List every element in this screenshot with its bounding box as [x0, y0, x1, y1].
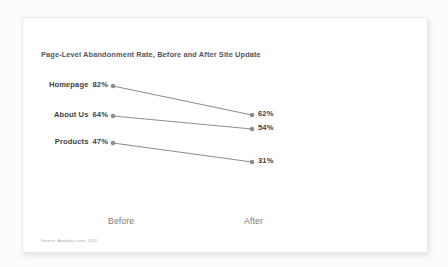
series-label-products: Products47%: [55, 137, 108, 146]
series-label-about-us: About Us64%: [54, 110, 108, 119]
slope-line-about-us: [113, 116, 252, 129]
series-right-value-about-us: 54%: [258, 123, 274, 132]
slope-line-products: [113, 143, 252, 162]
slope-dot-about-us-before: [111, 114, 116, 119]
series-label-homepage: Homepage82%: [49, 80, 108, 89]
series-left-value-products: 47%: [93, 137, 109, 146]
slope-chart-plot: [0, 0, 448, 267]
source-note: Source: Analytics.com, 2021.: [41, 238, 99, 243]
series-left-value-about-us: 64%: [93, 110, 109, 119]
slope-series-products: [111, 141, 255, 165]
slope-dot-homepage-after: [250, 113, 255, 118]
slope-dot-homepage-before: [111, 84, 116, 89]
series-name-about-us: About Us: [54, 110, 89, 119]
slope-series-homepage: [111, 84, 255, 118]
slope-dot-about-us-after: [250, 127, 255, 132]
slope-series-about-us: [111, 114, 255, 132]
slope-line-homepage: [113, 86, 252, 115]
slope-dot-products-before: [111, 141, 116, 146]
series-right-value-products: 31%: [258, 156, 274, 165]
chart-canvas: Page-Level Abandonment Rate, Before and …: [0, 0, 448, 267]
axis-label-before: Before: [108, 216, 134, 226]
slope-dot-products-after: [250, 160, 255, 165]
series-name-homepage: Homepage: [49, 80, 89, 89]
axis-label-after: After: [244, 216, 263, 226]
series-name-products: Products: [55, 137, 89, 146]
series-left-value-homepage: 82%: [93, 80, 109, 89]
series-right-value-homepage: 62%: [258, 109, 274, 118]
